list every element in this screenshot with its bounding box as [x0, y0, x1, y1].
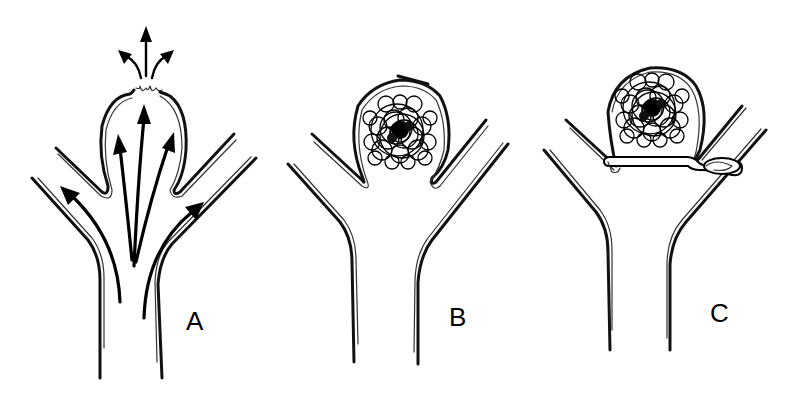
embolization-coils [363, 95, 437, 169]
vessel-wall-left-outer [32, 178, 100, 378]
panel-label-c: C [710, 298, 729, 329]
vessel-wall-left-outer-c [544, 150, 610, 350]
escape-arrow-right [152, 56, 166, 78]
panel-c [544, 68, 766, 350]
flow-arrow-right-branch [144, 212, 192, 318]
panel-label-b: B [449, 302, 466, 333]
surgical-clip-loop [704, 158, 740, 174]
aneurysm-treatment-figure [0, 0, 792, 397]
vessel-wall-left-outer-inner-c [550, 150, 612, 330]
escape-arrow-left [126, 56, 141, 78]
arrowhead-escape-right [160, 50, 174, 64]
arrowhead-center [137, 104, 151, 124]
panel-a [32, 26, 256, 378]
arrowhead-escape-up [140, 26, 152, 42]
vessel-wall-left-outer-inner-b [294, 164, 358, 344]
arrowhead-left-inner [113, 134, 127, 155]
flow-arrow-left-inner [120, 148, 132, 260]
vessel-wall-left-outer-inner [38, 178, 104, 348]
panel-b [288, 76, 508, 364]
panel-label-a: A [186, 306, 203, 337]
flow-arrow-left-branch [72, 196, 120, 302]
rupture-site [136, 86, 162, 91]
arrowhead-right-inner [162, 132, 175, 153]
